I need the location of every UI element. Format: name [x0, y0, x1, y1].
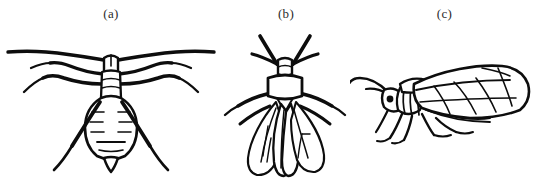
figure-panel-a: (a) [0, 0, 222, 188]
figure-panel-c: (c) [350, 0, 539, 188]
aphid-alate-dorsal-icon [222, 22, 350, 188]
panel-label-c: (c) [350, 6, 539, 22]
panel-label-b: (b) [222, 6, 350, 22]
figure-plate: (a) [0, 0, 539, 188]
figure-panel-b: (b) [222, 0, 350, 188]
panel-label-a: (a) [0, 6, 222, 22]
aphid-apterous-dorsal-icon [0, 22, 222, 188]
aphid-alate-lateral-icon [350, 22, 539, 188]
